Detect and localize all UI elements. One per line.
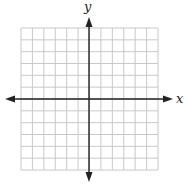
coordinate-plane: x y [0,0,189,186]
x-axis-left-arrow-icon [5,96,15,103]
y-axis-down-arrow-icon [86,172,93,182]
x-axis-label: x [176,91,184,106]
x-axis-right-arrow-icon [163,96,173,103]
y-axis-label: y [83,0,92,14]
y-axis-up-arrow-icon [86,17,93,27]
